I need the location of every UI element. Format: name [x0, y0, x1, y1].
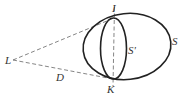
- label-S-prime: S': [128, 44, 137, 56]
- label-L: L: [4, 54, 11, 66]
- label-I: I: [111, 2, 117, 14]
- ray-L-I: [13, 18, 114, 60]
- label-K: K: [106, 83, 115, 95]
- label-S: S: [172, 35, 178, 47]
- sphere-illumination-diagram: L I K S S' D: [0, 0, 190, 97]
- label-D: D: [55, 71, 64, 83]
